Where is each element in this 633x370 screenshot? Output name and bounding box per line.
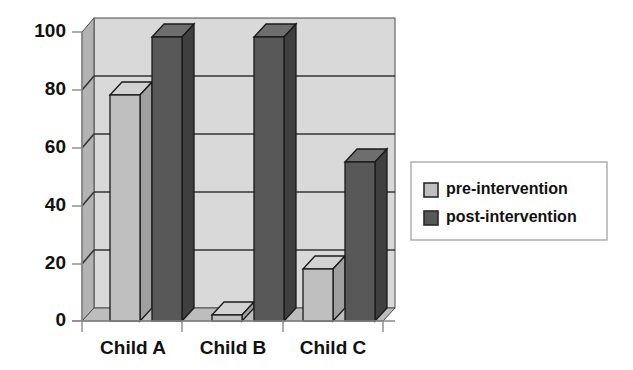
bar-child-b-post[interactable] bbox=[254, 24, 296, 321]
x-axis-label-child-a: Child A bbox=[100, 337, 166, 358]
bar-child-c-pre[interactable] bbox=[303, 256, 345, 321]
y-axis-label-0: 0 bbox=[55, 309, 66, 330]
legend: pre-intervention post-intervention bbox=[411, 162, 607, 240]
legend-item-pre-intervention[interactable]: pre-intervention bbox=[424, 180, 568, 197]
y-axis-label-80: 80 bbox=[45, 78, 66, 99]
bar-child-a-pre[interactable] bbox=[110, 82, 152, 321]
bar-child-a-post[interactable] bbox=[152, 24, 194, 321]
x-axis-label-child-b: Child B bbox=[200, 337, 267, 358]
chart-canvas: 100 80 60 40 20 0 bbox=[0, 0, 633, 370]
legend-label-post-intervention: post-intervention bbox=[446, 208, 577, 225]
y-axis-label-60: 60 bbox=[45, 136, 66, 157]
x-axis-labels: Child A Child B Child C bbox=[100, 337, 366, 358]
x-axis-label-child-c: Child C bbox=[300, 337, 367, 358]
legend-box bbox=[411, 162, 607, 240]
legend-item-post-intervention[interactable]: post-intervention bbox=[424, 208, 577, 225]
legend-swatch-post-intervention bbox=[424, 211, 438, 225]
legend-swatch-pre-intervention bbox=[424, 183, 438, 197]
x-axis bbox=[72, 321, 395, 332]
y-axis-label-40: 40 bbox=[45, 194, 66, 215]
y-axis-label-100: 100 bbox=[34, 20, 66, 41]
plot-left-wall bbox=[82, 18, 94, 321]
y-axis-labels: 100 80 60 40 20 0 bbox=[34, 20, 66, 330]
bar-child-c-post[interactable] bbox=[345, 149, 387, 321]
bar-chart: 100 80 60 40 20 0 bbox=[0, 0, 633, 370]
legend-label-pre-intervention: pre-intervention bbox=[446, 180, 568, 197]
y-axis-label-20: 20 bbox=[45, 252, 66, 273]
y-axis bbox=[72, 32, 82, 321]
